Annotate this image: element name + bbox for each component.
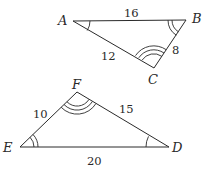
triangle-def: F E D 10 15 20 bbox=[2, 77, 183, 168]
side-label-ab: 16 bbox=[124, 6, 139, 20]
vertex-label-f: F bbox=[71, 77, 82, 92]
vertex-label-d: D bbox=[171, 140, 183, 155]
vertex-label-a: A bbox=[57, 13, 67, 28]
angle-d-arc bbox=[146, 136, 149, 147]
side-label-fd: 15 bbox=[119, 102, 134, 116]
vertex-label-c: C bbox=[148, 72, 158, 87]
side-label-ef: 10 bbox=[33, 107, 48, 121]
side-label-ac: 12 bbox=[101, 49, 116, 63]
side-label-ed: 20 bbox=[87, 154, 102, 168]
angle-c-arcs bbox=[136, 46, 167, 60]
angle-a-arc bbox=[87, 21, 90, 31]
vertex-label-b: B bbox=[191, 11, 202, 26]
triangle-abc: A B C 16 12 8 bbox=[57, 6, 202, 87]
similar-triangles-diagram: A B C 16 12 8 F E D 10 15 20 bbox=[0, 0, 211, 171]
side-label-bc: 8 bbox=[172, 43, 179, 57]
vertex-label-e: E bbox=[2, 140, 13, 155]
